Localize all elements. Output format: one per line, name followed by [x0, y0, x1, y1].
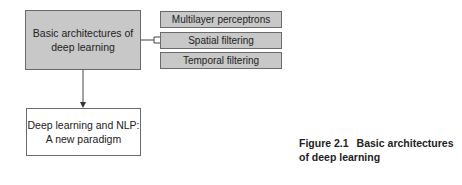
sub-node-multilayer-perceptrons: Multilayer perceptrons [160, 11, 282, 28]
sub-node-spatial-filtering: Spatial filtering [160, 32, 282, 49]
sub-node-label: Temporal filtering [183, 55, 259, 66]
figure-caption: Figure 2.1Basic architectures of deep le… [299, 136, 454, 164]
next-node: Deep learning and NLP: A new paradigm [26, 108, 141, 156]
main-node-label: Basic architectures of deep learning [32, 26, 134, 54]
sub-node-label: Multilayer perceptrons [172, 14, 270, 25]
next-node-label-line2: A new paradigm [27, 132, 139, 146]
sub-node-label: Spatial filtering [188, 35, 254, 46]
figure-number: Figure 2.1 [299, 137, 349, 149]
figure-title-line1: Basic architectures [357, 137, 454, 149]
sub-node-temporal-filtering: Temporal filtering [160, 52, 282, 69]
figure-title-line2: of deep learning [299, 150, 454, 164]
main-node: Basic architectures of deep learning [25, 10, 141, 70]
next-node-label-line1: Deep learning and NLP: [27, 118, 139, 132]
